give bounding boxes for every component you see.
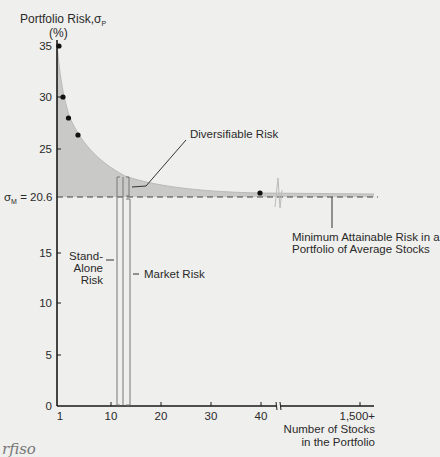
risk-brackets <box>117 177 130 405</box>
x-tick-20: 20 <box>151 410 171 422</box>
minimum-risk-label-2: Portfolio of Average Stocks <box>292 243 430 255</box>
x-tick-30: 30 <box>201 410 221 422</box>
standalone-risk-label-2: Alone <box>60 262 103 274</box>
x-axis-break-left <box>276 402 277 410</box>
y-tick-25: 25 <box>26 143 52 155</box>
x-axis-title-line1: Number of Stocks <box>280 423 375 435</box>
x-tick-40: 40 <box>251 410 271 422</box>
handwritten-scribble: rfiso <box>2 440 36 457</box>
diversifiable-risk-area <box>57 44 374 197</box>
x-tick-1500: 1,500+ <box>318 410 375 422</box>
y-axis-unit: (%) <box>49 27 68 39</box>
standalone-risk-label-1: Stand- <box>60 250 103 262</box>
y-tick-35: 35 <box>26 40 52 52</box>
x-tick-10: 10 <box>101 410 121 422</box>
y-tick-10: 10 <box>26 297 52 309</box>
y-tick-5: 5 <box>26 349 52 361</box>
minimum-risk-label-1: Minimum Attainable Risk in a <box>292 231 440 243</box>
y-tick-0: 0 <box>26 400 52 412</box>
sigma-m-label: σM = 20.6 <box>4 191 52 208</box>
standalone-risk-label-3: Risk <box>60 274 103 286</box>
x-tick-1: 1 <box>52 410 68 422</box>
y-tick-30: 30 <box>26 91 52 103</box>
y-axis-title-sub: P <box>101 20 106 27</box>
market-risk-label: Market Risk <box>144 268 205 280</box>
x-axis-break-right <box>280 402 281 410</box>
sigma-m-value: = 20.6 <box>17 191 53 203</box>
y-tick-15: 15 <box>26 247 52 259</box>
x-axis-title-line2: in the Portfolio <box>280 436 375 448</box>
y-axis-title-text: Portfolio Risk,σ <box>20 12 101 26</box>
diversifiable-risk-label: Diversifiable Risk <box>190 128 278 140</box>
